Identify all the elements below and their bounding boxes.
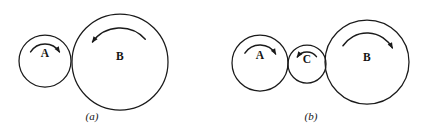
wheel-rim-a [232, 35, 288, 91]
spin-arc-b [343, 33, 392, 48]
wheel-c-panel-b: C [288, 45, 326, 83]
panel-b: ACB(b) [232, 20, 409, 123]
wheel-label-b: B [116, 50, 124, 62]
wheel-a-panel-a: A [19, 35, 71, 87]
wheel-label-a: A [256, 49, 265, 61]
wheel-rim-a [19, 35, 71, 87]
panel-a: AB(a) [19, 14, 168, 123]
wheel-label-b: B [363, 51, 371, 63]
panel-caption-panel-a: (a) [86, 110, 99, 123]
wheel-label-c: C [303, 53, 312, 65]
wheel-a-panel-b: A [232, 35, 288, 91]
wheel-label-a: A [41, 47, 50, 59]
spin-arrowhead-c [297, 51, 303, 57]
wheels-diagram: AB(a)ACB(b) [0, 0, 425, 131]
panel-caption-panel-b: (b) [305, 110, 318, 123]
spin-arc-b [92, 28, 145, 42]
wheel-b-panel-a: B [72, 14, 168, 110]
figure-container: AB(a)ACB(b) [0, 0, 425, 131]
panels-layer: AB(a)ACB(b) [19, 14, 409, 123]
wheel-b-panel-b: B [325, 20, 409, 104]
